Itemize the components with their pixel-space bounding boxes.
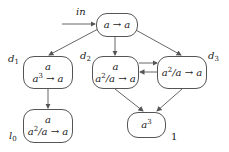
- node-l0-label: l0: [9, 131, 17, 141]
- node-l0-line1: a: [45, 114, 51, 126]
- edge-d3-final: [157, 89, 182, 111]
- node-d1-label: d1: [8, 54, 19, 64]
- node-d2-rule: a2/a → a: [95, 73, 135, 85]
- edge-d2-final: [115, 89, 143, 111]
- node-d2-line1: a: [113, 61, 119, 73]
- node-d3-rule: a2/a → a: [162, 67, 202, 79]
- node-d1: a a3 → a: [23, 56, 73, 89]
- node-d2: a a2/a → a: [92, 56, 139, 89]
- node-root-rule: a → a: [104, 19, 131, 31]
- node-root: a → a: [96, 13, 138, 37]
- node-final-tag: 1: [171, 132, 177, 142]
- node-final-content: a3: [141, 119, 151, 131]
- node-d3: a2/a → a: [157, 56, 207, 89]
- node-l0: a a2/a → a: [23, 109, 73, 143]
- node-l0-rule: a2/a → a: [28, 126, 68, 138]
- node-final: a3: [127, 112, 166, 138]
- node-d3-label: d3: [208, 51, 219, 61]
- entry-label: in: [76, 7, 86, 17]
- node-d1-line1: a: [45, 61, 51, 73]
- edge-root-d3: [134, 29, 181, 55]
- node-d2-label: d2: [80, 51, 91, 61]
- node-d1-rule: a3 → a: [32, 73, 63, 85]
